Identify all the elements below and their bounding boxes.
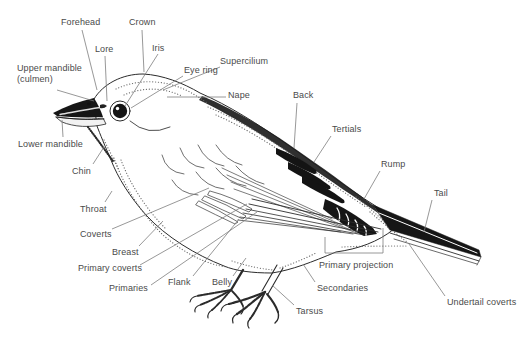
label-belly: Belly <box>212 277 232 288</box>
bird-eye-highlight <box>116 107 119 110</box>
label-eye-ring: Eye ring <box>184 65 218 76</box>
label-supercilium: Supercilium <box>220 56 268 67</box>
label-forehead: Forehead <box>61 17 100 28</box>
label-secondaries: Secondaries <box>317 283 368 294</box>
leader-tail <box>424 200 432 232</box>
label-crown: Crown <box>129 17 156 28</box>
label-upper-mandible: Upper mandible (culmen) <box>17 63 91 85</box>
label-lower-mandible: Lower mandible <box>18 139 83 150</box>
bird-lower-mandible <box>56 117 106 126</box>
label-iris: Iris <box>152 43 164 54</box>
label-back: Back <box>293 90 313 101</box>
label-tertials: Tertials <box>332 124 361 135</box>
leader-crown <box>142 30 144 72</box>
label-rump: Rump <box>381 159 405 170</box>
label-throat: Throat <box>80 204 107 215</box>
bird-legs <box>190 265 283 328</box>
label-undertail-coverts: Undertail coverts <box>447 297 516 308</box>
label-chin: Chin <box>72 166 91 177</box>
label-primary-coverts: Primary coverts <box>78 263 142 274</box>
label-flank: Flank <box>168 277 191 288</box>
label-tarsus: Tarsus <box>296 306 323 317</box>
label-breast: Breast <box>112 247 139 258</box>
bird-nostril <box>87 103 91 105</box>
label-tail: Tail <box>434 188 448 199</box>
label-lore: Lore <box>95 44 113 55</box>
label-primary-projection: Primary projection <box>319 260 393 271</box>
leader-back <box>294 103 297 148</box>
leader-tarsus <box>272 285 294 305</box>
leader-chin <box>93 147 104 164</box>
leader-breast <box>139 221 163 246</box>
label-primaries: Primaries <box>109 283 148 294</box>
leader-undertail-coverts <box>409 244 445 296</box>
leader-rump <box>364 171 380 199</box>
bird-tail <box>373 205 481 265</box>
bird-topography-diagram: Forehead Crown Lore Iris Upper mandible … <box>0 0 529 344</box>
leader-throat <box>105 191 112 202</box>
leader-upper-mandible <box>57 90 94 101</box>
label-coverts: Coverts <box>80 229 112 240</box>
label-nape: Nape <box>228 90 250 101</box>
leader-tertials <box>314 136 331 162</box>
leader-secondaries <box>303 264 315 282</box>
